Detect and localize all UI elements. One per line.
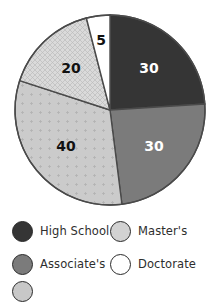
legend-item-cutoff — [12, 279, 40, 303]
legend-swatch-icon — [110, 221, 131, 242]
legend-label: Master's — [138, 224, 187, 238]
slice-value-label: 30 — [139, 60, 159, 76]
legend-label: High School — [40, 224, 109, 238]
legend-swatch-icon — [12, 281, 33, 302]
slice-value-label: 30 — [144, 138, 164, 154]
legend-label: Associate's — [40, 257, 105, 271]
legend-swatch-icon — [12, 254, 33, 275]
legend-swatch-icon — [110, 254, 131, 275]
slice-value-label: 5 — [96, 32, 106, 48]
pie-slices — [15, 15, 205, 205]
slice-value-label: 20 — [61, 60, 81, 76]
legend-item-associate-s: Associate's — [12, 252, 105, 276]
legend-item-high-school: High School — [12, 219, 109, 243]
legend-label: Doctorate — [138, 257, 196, 271]
legend-swatch-icon — [12, 221, 33, 242]
legend-item-doctorate: Doctorate — [110, 252, 196, 276]
slice-value-label: 40 — [56, 138, 76, 154]
legend-item-master-s: Master's — [110, 219, 187, 243]
pie-chart: 303040205 — [0, 0, 222, 215]
